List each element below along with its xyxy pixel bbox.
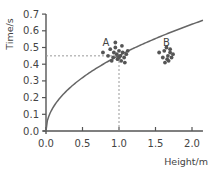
data-point-b (161, 56, 165, 60)
curve-path (46, 20, 203, 131)
data-point-b (166, 54, 170, 58)
y-tick-label: 0.0 (23, 126, 39, 137)
data-point-a (122, 56, 126, 60)
data-point-a (121, 51, 125, 55)
annotations: AB (102, 37, 170, 48)
data-point-b (170, 56, 174, 60)
data-point-b (157, 51, 161, 55)
data-point-b (163, 61, 167, 65)
x-tick-label: 0.0 (38, 138, 54, 149)
x-axis-title: Height/m (164, 156, 208, 167)
x-tick-label: 1.0 (111, 138, 127, 149)
data-point-a (113, 41, 117, 45)
data-point-a (111, 56, 115, 60)
data-point-b (165, 57, 169, 61)
data-point-b (171, 52, 175, 56)
data-point-a (117, 49, 121, 53)
y-tick-label: 0.6 (23, 25, 39, 36)
reference-lines (46, 56, 119, 131)
cluster-label-a: A (102, 37, 109, 48)
data-point-a (113, 46, 117, 50)
x-tick-label: 2.0 (184, 138, 200, 149)
y-axis-title: Time/s (4, 18, 15, 50)
data-point-a (123, 61, 127, 65)
y-tick-label: 0.7 (23, 9, 39, 20)
theoretical-curve (46, 20, 203, 131)
cluster-label-b: B (163, 37, 170, 48)
data-point-a (119, 59, 123, 63)
x-tick-label: 1.5 (148, 138, 164, 149)
y-tick-label: 0.5 (23, 42, 39, 53)
data-point-a (101, 51, 105, 55)
y-tick-label: 0.3 (23, 75, 39, 86)
data-point-a (120, 44, 124, 48)
data-point-a (112, 51, 116, 55)
data-point-a (106, 54, 110, 58)
data-point-b (162, 49, 166, 53)
data-point-a (117, 56, 121, 60)
y-tick-label: 0.2 (23, 92, 39, 103)
data-point-a (124, 52, 128, 56)
x-tick-label: 0.5 (75, 138, 91, 149)
chart: 0.00.10.20.30.40.50.60.70.00.51.01.52.0 … (0, 0, 211, 171)
y-tick-label: 0.1 (23, 109, 39, 120)
y-tick-label: 0.4 (23, 59, 39, 70)
data-point-a (126, 49, 130, 53)
data-point-a (110, 59, 114, 63)
